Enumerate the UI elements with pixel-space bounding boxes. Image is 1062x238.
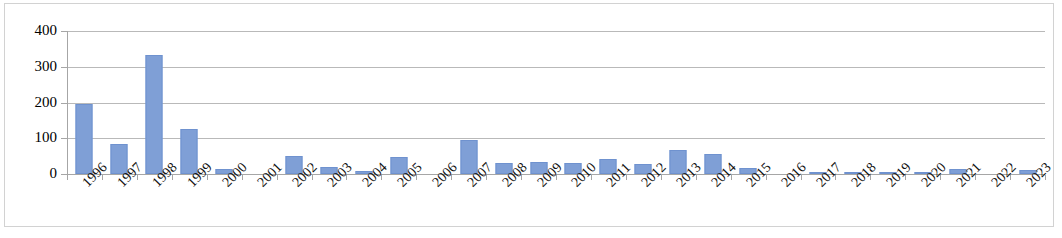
bar-slot bbox=[940, 31, 975, 174]
bar-slot bbox=[67, 31, 102, 174]
bar-slot bbox=[137, 31, 172, 174]
bar-slot bbox=[626, 31, 661, 174]
bar-slot bbox=[172, 31, 207, 174]
x-axis-tick-mark bbox=[207, 175, 208, 180]
x-axis-tick-mark bbox=[67, 175, 68, 180]
bar-slot bbox=[486, 31, 521, 174]
x-axis-tick-mark bbox=[381, 175, 382, 180]
x-axis-tick-mark bbox=[242, 175, 243, 180]
y-axis-tick-mark bbox=[61, 31, 67, 32]
bar-slot bbox=[870, 31, 905, 174]
bar-slot bbox=[102, 31, 137, 174]
x-axis-tick-mark bbox=[1045, 175, 1046, 180]
x-axis-tick-mark bbox=[172, 175, 173, 180]
x-axis-tick-mark bbox=[451, 175, 452, 180]
x-axis-tick-mark bbox=[975, 175, 976, 180]
bar[interactable] bbox=[146, 55, 163, 174]
x-axis-tick-mark bbox=[416, 175, 417, 180]
x-axis-tick-mark bbox=[731, 175, 732, 180]
y-axis-line bbox=[67, 31, 68, 175]
bar-slot bbox=[766, 31, 801, 174]
x-axis-tick-mark bbox=[137, 175, 138, 180]
bar-slot bbox=[556, 31, 591, 174]
bar-slot bbox=[416, 31, 451, 174]
x-axis-tick-mark bbox=[1010, 175, 1011, 180]
bar-slot bbox=[975, 31, 1010, 174]
x-axis-tick-mark bbox=[626, 175, 627, 180]
bar-slot bbox=[346, 31, 381, 174]
x-axis-tick-mark bbox=[521, 175, 522, 180]
y-axis-tick-mark bbox=[61, 138, 67, 139]
x-axis-tick-mark bbox=[870, 175, 871, 180]
bar-slot bbox=[591, 31, 626, 174]
chart-frame: 0100200300400199619971998199920002001200… bbox=[4, 3, 1054, 227]
bar-slot bbox=[801, 31, 836, 174]
bar-slot bbox=[451, 31, 486, 174]
bar-slot bbox=[905, 31, 940, 174]
x-axis-tick-mark bbox=[801, 175, 802, 180]
bar-slot bbox=[277, 31, 312, 174]
y-axis-tick-label: 100 bbox=[5, 130, 57, 145]
bar-slot bbox=[207, 31, 242, 174]
y-axis-tick-label: 0 bbox=[5, 166, 57, 181]
x-axis-tick-mark bbox=[102, 175, 103, 180]
x-axis-tick-mark bbox=[346, 175, 347, 180]
bar-slot bbox=[312, 31, 347, 174]
bar-slot bbox=[661, 31, 696, 174]
y-axis-tick-mark bbox=[61, 67, 67, 68]
y-axis-tick-label: 300 bbox=[5, 59, 57, 74]
x-axis-tick-mark bbox=[591, 175, 592, 180]
y-axis-tick-label: 400 bbox=[5, 23, 57, 38]
bar-slot bbox=[696, 31, 731, 174]
x-axis-tick-mark bbox=[766, 175, 767, 180]
bar-slot bbox=[835, 31, 870, 174]
x-axis-tick-mark bbox=[940, 175, 941, 180]
bar[interactable] bbox=[76, 104, 93, 174]
x-axis-tick-mark bbox=[277, 175, 278, 180]
x-axis-tick-mark bbox=[696, 175, 697, 180]
bar-slot bbox=[521, 31, 556, 174]
x-axis-tick-mark bbox=[556, 175, 557, 180]
y-axis-tick-mark bbox=[61, 103, 67, 104]
x-axis-tick-mark bbox=[486, 175, 487, 180]
x-axis-tick-mark bbox=[661, 175, 662, 180]
bar-slot bbox=[731, 31, 766, 174]
bar-slot bbox=[381, 31, 416, 174]
x-axis-tick-mark bbox=[835, 175, 836, 180]
x-axis-tick-mark bbox=[312, 175, 313, 180]
x-axis-tick-mark bbox=[905, 175, 906, 180]
plot-area bbox=[67, 31, 1045, 174]
y-axis-tick-label: 200 bbox=[5, 95, 57, 110]
bar-slot bbox=[1010, 31, 1045, 174]
bar-slot bbox=[242, 31, 277, 174]
